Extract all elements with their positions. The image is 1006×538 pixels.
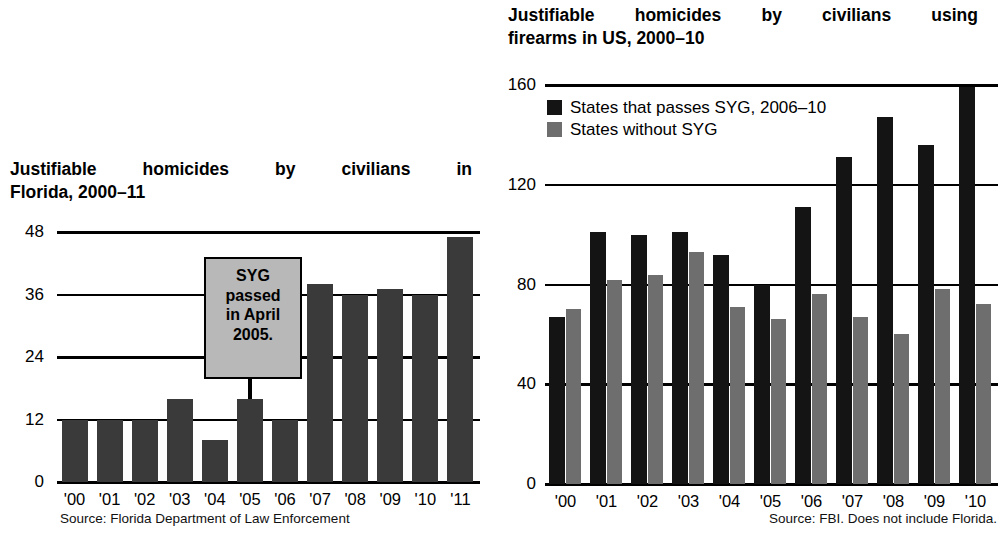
- us-bar-03-syg: [672, 232, 687, 484]
- us-plot-area: 04080120160'00'01'02'03'04'05'06'07'08'0…: [496, 0, 1006, 538]
- us-bar-03-nosyg: [689, 252, 704, 484]
- us-x-tick-02: '02: [637, 492, 659, 511]
- us-bar-06-nosyg: [812, 294, 827, 484]
- us-bar-00-syg: [549, 317, 564, 484]
- us-bar-08-syg: [877, 117, 892, 484]
- florida-x-tick-04: '04: [204, 490, 226, 509]
- us-legend-item-1: States that passes SYG, 2006–10: [547, 97, 826, 117]
- us-bar-04-nosyg: [730, 307, 745, 484]
- florida-chart-panel: Justifiable homicides by civilians in Fl…: [0, 0, 496, 538]
- florida-bar-06: [272, 420, 298, 483]
- florida-bar-04: [202, 440, 228, 482]
- us-bar-04-syg: [713, 255, 728, 484]
- florida-y-tick-36: 36: [0, 285, 44, 305]
- us-legend-label-2: States without SYG: [570, 121, 717, 138]
- us-y-tick-120: 120: [496, 175, 536, 195]
- syg-callout-line-1: SYG: [206, 266, 300, 286]
- us-x-tick-10: '10: [965, 492, 987, 511]
- syg-callout-line-4: 2005.: [206, 325, 300, 345]
- us-x-tick-09: '09: [924, 492, 946, 511]
- us-bar-10-syg: [959, 87, 974, 484]
- us-x-tick-01: '01: [596, 492, 618, 511]
- us-y-tick-160: 160: [496, 75, 536, 95]
- florida-bar-08: [342, 295, 368, 483]
- us-legend-item-2: States without SYG: [547, 119, 826, 139]
- us-y-tick-80: 80: [496, 275, 536, 295]
- us-x-tick-06: '06: [801, 492, 823, 511]
- us-legend-swatch-gray: [547, 122, 562, 137]
- us-x-tick-03: '03: [678, 492, 700, 511]
- florida-bar-09: [377, 289, 403, 482]
- us-bar-07-syg: [836, 157, 851, 484]
- florida-x-tick-09: '09: [380, 490, 402, 509]
- us-bar-00-nosyg: [566, 309, 581, 484]
- syg-callout-pointer: [248, 379, 252, 399]
- florida-x-tick-03: '03: [169, 490, 191, 509]
- florida-y-tick-12: 12: [0, 410, 44, 430]
- us-bar-01-syg: [590, 232, 605, 484]
- us-source-caption: Source: FBI. Does not include Florida.: [769, 511, 997, 526]
- us-chart-panel: Justifiable homicides by civilians using…: [496, 0, 1006, 538]
- us-bar-02-syg: [631, 235, 646, 484]
- florida-bar-03: [167, 399, 193, 482]
- us-legend-label-1: States that passes SYG, 2006–10: [570, 99, 826, 116]
- us-bar-05-nosyg: [771, 319, 786, 484]
- us-bar-08-nosyg: [894, 334, 909, 484]
- us-bar-10-nosyg: [976, 304, 991, 484]
- florida-bar-07: [307, 284, 333, 482]
- florida-bar-11: [447, 237, 473, 482]
- syg-callout-line-3: in April: [206, 305, 300, 325]
- us-bar-01-nosyg: [607, 280, 622, 484]
- florida-x-tick-06: '06: [274, 490, 296, 509]
- us-gridline-160: [545, 84, 998, 87]
- florida-bar-00: [62, 420, 88, 483]
- florida-source-caption: Source: Florida Department of Law Enforc…: [60, 511, 350, 526]
- us-y-tick-0: 0: [496, 474, 536, 494]
- florida-x-tick-01: '01: [99, 490, 121, 509]
- us-bar-02-nosyg: [648, 275, 663, 484]
- florida-x-tick-02: '02: [134, 490, 156, 509]
- florida-bar-10: [412, 295, 438, 483]
- florida-x-tick-07: '07: [309, 490, 331, 509]
- florida-gridline-48: [57, 231, 480, 234]
- us-x-tick-00: '00: [555, 492, 577, 511]
- florida-y-tick-24: 24: [0, 347, 44, 367]
- us-legend-swatch-black: [547, 100, 562, 115]
- us-x-tick-07: '07: [842, 492, 864, 511]
- us-chart-legend: States that passes SYG, 2006–10States wi…: [547, 97, 826, 141]
- syg-callout-box: SYGpassedin April2005.: [204, 257, 302, 379]
- us-bar-05-syg: [754, 285, 769, 485]
- florida-bar-01: [97, 420, 123, 483]
- us-x-tick-08: '08: [883, 492, 905, 511]
- florida-bar-05: [237, 399, 263, 482]
- florida-x-tick-11: '11: [450, 490, 470, 509]
- us-x-tick-04: '04: [719, 492, 741, 511]
- us-bar-06-syg: [795, 207, 810, 484]
- florida-y-tick-48: 48: [0, 222, 44, 242]
- florida-x-tick-05: '05: [239, 490, 261, 509]
- us-bar-09-syg: [918, 145, 933, 484]
- us-bar-09-nosyg: [935, 289, 950, 484]
- florida-plot-area: 012243648'00'01'02'03'04'05'06'07'08'09'…: [0, 0, 496, 538]
- florida-y-tick-0: 0: [0, 472, 44, 492]
- syg-callout-line-2: passed: [206, 286, 300, 306]
- florida-x-tick-00: '00: [64, 490, 86, 509]
- florida-x-tick-10: '10: [415, 490, 437, 509]
- florida-bar-02: [132, 420, 158, 483]
- us-bar-07-nosyg: [853, 317, 868, 484]
- florida-x-tick-08: '08: [344, 490, 366, 509]
- us-x-tick-05: '05: [760, 492, 782, 511]
- us-y-tick-40: 40: [496, 374, 536, 394]
